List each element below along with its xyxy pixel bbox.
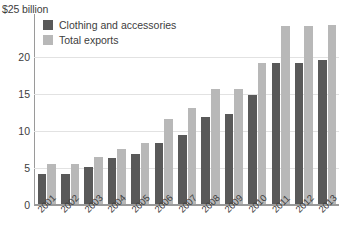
bar-group xyxy=(82,20,105,204)
bar-group xyxy=(316,20,339,204)
bar-group xyxy=(222,20,245,204)
bar-group xyxy=(129,20,152,204)
bar xyxy=(164,119,173,204)
bar xyxy=(234,89,243,204)
legend-label: Clothing and accessories xyxy=(59,19,176,31)
bar xyxy=(155,143,164,204)
x-axis-tick-labels: 2001200220032004200520062007200820092010… xyxy=(35,206,340,233)
bar-group xyxy=(152,20,175,204)
bar xyxy=(211,89,220,204)
bar-group xyxy=(35,20,58,204)
x-axis-tick-slot: 2008 xyxy=(199,206,222,233)
x-axis-tick-slot: 2004 xyxy=(105,206,128,233)
chart-legend: Clothing and accessories Total exports xyxy=(43,19,176,46)
bar-group xyxy=(105,20,128,204)
x-axis-tick-slot: 2012 xyxy=(293,206,316,233)
bar xyxy=(304,26,313,204)
bar xyxy=(178,135,187,204)
x-axis-tick-slot: 2011 xyxy=(270,206,293,233)
bar-group xyxy=(58,20,81,204)
bar-group xyxy=(199,20,222,204)
bar xyxy=(248,95,257,204)
x-axis-tick-slot: 2010 xyxy=(246,206,269,233)
y-axis-tick-label: 5 xyxy=(24,162,30,174)
bar xyxy=(201,117,210,204)
bar-group xyxy=(292,20,315,204)
bar-groups xyxy=(35,20,339,204)
x-axis-tick-slot: 2007 xyxy=(176,206,199,233)
legend-item-total-exports: Total exports xyxy=(43,34,176,46)
x-axis-tick-slot: 2009 xyxy=(223,206,246,233)
bar-group xyxy=(269,20,292,204)
bar-group xyxy=(246,20,269,204)
x-axis-tick-slot: 2013 xyxy=(317,206,340,233)
bar xyxy=(225,114,234,204)
y-axis-unit-caption: $25 billion xyxy=(2,3,48,15)
bar-group xyxy=(175,20,198,204)
bar xyxy=(258,63,267,204)
plot-area: 05101520 xyxy=(34,20,339,205)
bar xyxy=(272,63,281,204)
y-axis-tick-label: 20 xyxy=(18,51,30,63)
legend-label: Total exports xyxy=(59,34,119,46)
legend-item-clothing-and-accessories: Clothing and accessories xyxy=(43,19,176,31)
bar-chart: $25 billion 05101520 2001200220032004200… xyxy=(0,0,342,233)
bar xyxy=(188,108,197,204)
x-axis-tick-slot: 2001 xyxy=(35,206,58,233)
bar xyxy=(328,25,337,204)
x-axis-tick-slot: 2002 xyxy=(58,206,81,233)
legend-swatch-icon xyxy=(43,35,53,45)
x-axis-tick-slot: 2003 xyxy=(82,206,105,233)
bar xyxy=(318,60,327,204)
x-axis-tick-slot: 2005 xyxy=(129,206,152,233)
y-axis-tick-label: 10 xyxy=(18,125,30,137)
x-axis-tick-slot: 2006 xyxy=(152,206,175,233)
legend-swatch-icon xyxy=(43,20,53,30)
y-axis-tick-label: 0 xyxy=(24,199,30,211)
y-axis-tick-label: 15 xyxy=(18,88,30,100)
bar xyxy=(295,63,304,204)
bar xyxy=(281,26,290,204)
